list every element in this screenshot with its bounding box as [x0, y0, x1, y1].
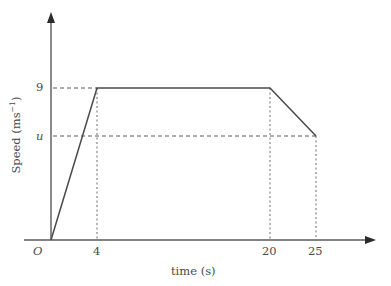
x-axis-arrowhead — [365, 236, 376, 244]
speed-time-line — [51, 88, 316, 240]
x-tick-label-25: 25 — [308, 246, 323, 258]
x-axis-title: time (s) — [171, 266, 216, 278]
graph-canvas — [0, 0, 391, 286]
speed-time-graph-figure: Speed (ms−1) 9 u O 4 20 25 time (s) — [0, 0, 391, 286]
x-tick-label-20: 20 — [262, 246, 277, 258]
y-axis-title-prefix: Speed (ms — [9, 112, 23, 173]
y-axis-arrowhead — [47, 12, 55, 23]
x-tick-label-4: 4 — [93, 246, 100, 258]
y-axis-title-suffix: ) — [9, 96, 23, 101]
y-tick-label-u: u — [36, 131, 43, 143]
x-origin-label: O — [33, 246, 42, 258]
y-axis-title: Speed (ms−1) — [9, 75, 23, 195]
y-tick-label-9: 9 — [36, 82, 43, 94]
y-axis-title-exponent: −1 — [8, 101, 17, 113]
x-axis — [24, 236, 376, 244]
y-axis — [47, 12, 55, 240]
y-axis-title-wrap: Speed (ms−1) — [0, 0, 30, 286]
